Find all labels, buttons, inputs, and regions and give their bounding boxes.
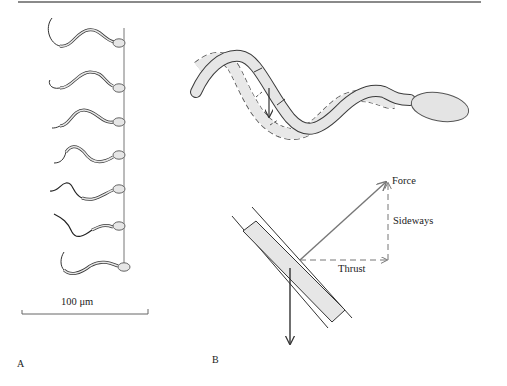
sperm-frame-7 — [61, 252, 130, 273]
sperm-frame-4 — [54, 147, 125, 163]
sperm-frame-1 — [48, 18, 125, 47]
sperm-frame-3 — [52, 110, 125, 128]
thrust-label: Thrust — [338, 263, 365, 274]
sperm-frame-6 — [54, 214, 125, 236]
panel-a-frames — [48, 18, 130, 273]
panel-label-b: B — [212, 354, 219, 365]
scale-bar-label: 100 μm — [61, 296, 93, 307]
sperm-frame-5 — [50, 183, 125, 199]
sperm-frame-2 — [49, 72, 125, 92]
force-label: Force — [392, 175, 416, 186]
diagram-canvas — [0, 0, 507, 386]
flagellum-segment — [243, 221, 345, 322]
force-vector — [300, 182, 386, 260]
sideways-label: Sideways — [393, 215, 433, 226]
panel-b-wave — [196, 56, 471, 134]
panel-label-a: A — [17, 358, 24, 369]
sperm-head-large — [409, 88, 471, 126]
scale-bar — [22, 309, 148, 314]
